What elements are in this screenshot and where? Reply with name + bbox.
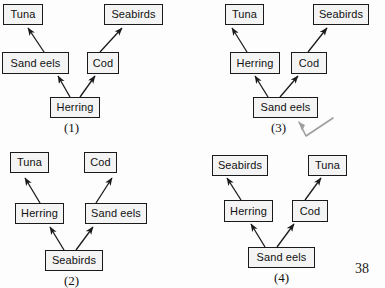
- node-label: Seabirds: [218, 160, 262, 171]
- worksheet-page: Tuna Seabirds Sand eels Cod Herring (1): [0, 0, 385, 288]
- node-label: Tuna: [315, 160, 340, 171]
- node-cod: Cod: [292, 200, 328, 222]
- page-number: 38: [355, 261, 369, 277]
- diagram-2-caption: (2): [64, 273, 79, 288]
- node-cod: Cod: [291, 52, 327, 74]
- diagram-1-caption: (1): [64, 120, 79, 136]
- node-tuna: Tuna: [308, 155, 347, 176]
- node-seabirds: Seabirds: [212, 155, 268, 176]
- node-sand-eels: Sand eels: [248, 247, 315, 268]
- diagram-3: Tuna Seabirds Herring Cod Sand eels (3): [195, 0, 385, 135]
- node-label: Cod: [90, 157, 110, 168]
- node-label: Cod: [93, 58, 113, 69]
- node-seabirds: Seabirds: [313, 4, 369, 25]
- node-label: Herring: [57, 102, 94, 113]
- edge-cod-to-seabirds: [100, 28, 122, 52]
- edge-herring-to-seabirds: [227, 178, 241, 200]
- edge-herring-to-tuna: [232, 28, 247, 52]
- node-tuna: Tuna: [225, 4, 264, 25]
- node-herring: Herring: [50, 97, 100, 118]
- edge-seabirds-to-herring: [50, 227, 64, 250]
- node-sand-eels: Sand eels: [85, 203, 147, 224]
- node-label: Sand eels: [257, 252, 307, 263]
- node-tuna: Tuna: [3, 4, 43, 25]
- edge-herring-to-tuna: [25, 178, 40, 203]
- node-label: Sand eels: [11, 58, 61, 69]
- edge-sand-eels-to-herring: [255, 76, 268, 97]
- node-label: Tuna: [10, 9, 35, 20]
- edge-herring-to-sand-eels: [58, 76, 70, 97]
- diagram-3-caption: (3): [271, 120, 286, 136]
- node-label: Seabirds: [111, 9, 155, 20]
- node-label: Sand eels: [91, 208, 141, 219]
- edge-cod-to-seabirds: [308, 28, 327, 52]
- diagram-4-caption: (4): [274, 270, 289, 286]
- edge-sand-eels-to-cod: [280, 76, 298, 97]
- handwritten-check-mark-icon: [295, 116, 355, 146]
- edge-seabirds-to-sand-eels: [76, 227, 93, 250]
- node-label: Cod: [300, 206, 320, 217]
- edge-sand-eels-to-cod: [277, 224, 294, 247]
- edge-cod-to-tuna: [305, 178, 321, 200]
- node-label: Sand eels: [261, 102, 311, 113]
- node-label: Seabirds: [52, 255, 96, 266]
- node-tuna: Tuna: [10, 152, 49, 173]
- node-seabirds: Seabirds: [104, 4, 163, 25]
- diagram-1: Tuna Seabirds Sand eels Cod Herring (1): [0, 0, 190, 135]
- node-cod: Cod: [87, 52, 119, 74]
- node-cod: Cod: [84, 152, 117, 173]
- edge-herring-to-cod: [80, 76, 95, 97]
- node-label: Tuna: [232, 9, 257, 20]
- edge-sand-eels-to-cod: [96, 178, 112, 203]
- edge-sand-eels-to-tuna: [28, 28, 44, 52]
- edge-sand-eels-to-herring: [251, 224, 265, 247]
- node-sand-eels: Sand eels: [2, 52, 69, 74]
- node-seabirds: Seabirds: [45, 250, 103, 271]
- node-label: Herring: [230, 206, 267, 217]
- node-herring: Herring: [224, 200, 273, 222]
- node-label: Herring: [237, 58, 274, 69]
- node-herring: Herring: [15, 203, 64, 224]
- node-sand-eels: Sand eels: [253, 97, 318, 118]
- node-label: Tuna: [17, 157, 42, 168]
- node-label: Cod: [299, 58, 319, 69]
- node-herring: Herring: [230, 52, 280, 74]
- diagram-2: Tuna Cod Herring Sand eels Seabirds (2): [0, 145, 190, 288]
- node-label: Seabirds: [319, 9, 363, 20]
- node-label: Herring: [21, 208, 58, 219]
